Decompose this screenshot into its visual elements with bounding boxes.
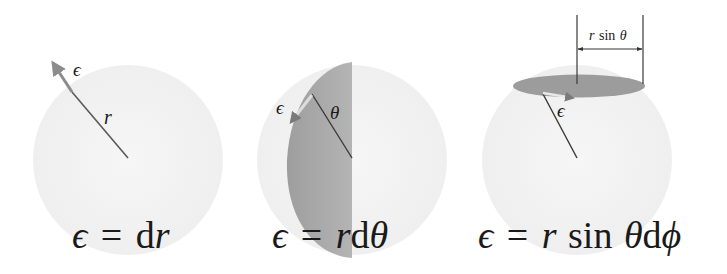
formula-polar: ϵ = rdθ [272, 214, 388, 256]
panel-polar: ϵ θ ϵ = rdθ [257, 62, 447, 258]
formula-azimuthal: ϵ = r sin θdϕ [478, 214, 681, 256]
epsilon-arrow [53, 63, 72, 92]
panel-radial: ϵ r ϵ = dr [33, 59, 223, 256]
dimension-label: r sin θ [589, 28, 627, 43]
theta-label: θ [330, 102, 339, 123]
latitude-disk [513, 75, 645, 98]
panel-azimuthal: ϵ r sin θ ϵ = r sin θdϕ [478, 15, 681, 256]
radius-label: r [104, 106, 112, 128]
formula-radial: ϵ = dr [72, 214, 170, 256]
spherical-coordinate-line-elements-figure: ϵ r ϵ = dr ϵ θ ϵ = rdθ [0, 0, 727, 274]
epsilon-label: ϵ [276, 97, 285, 118]
epsilon-label: ϵ [557, 100, 566, 121]
epsilon-label: ϵ [73, 59, 82, 80]
